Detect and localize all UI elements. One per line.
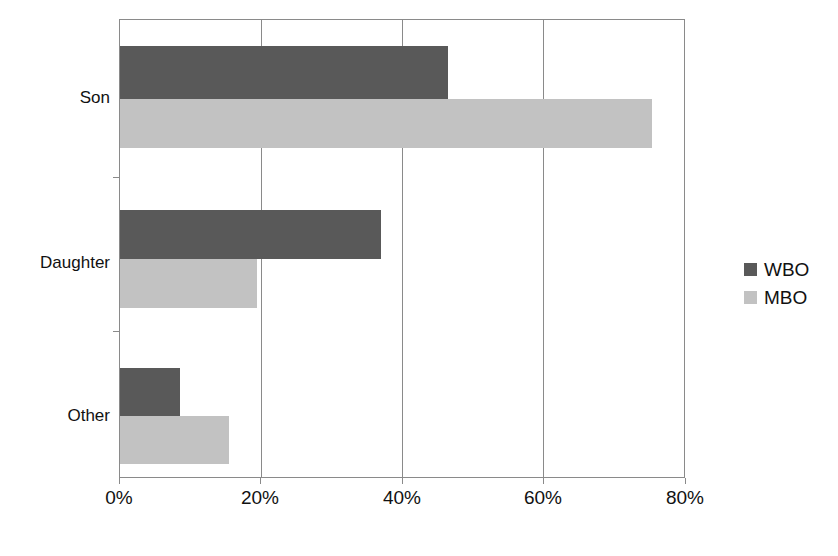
legend-swatch-mbo-icon	[744, 291, 757, 304]
x-axis-label-20: 20%	[220, 487, 300, 509]
bar-son-mbo	[120, 99, 652, 148]
x-axis-tick-60	[543, 478, 544, 484]
bar-daughter-mbo	[120, 259, 257, 308]
category-label-other: Other	[0, 407, 110, 424]
category-label-daughter: Daughter	[0, 254, 110, 271]
x-axis-label-60: 60%	[503, 487, 583, 509]
x-axis-tick-0	[119, 478, 120, 484]
x-axis-tick-80	[685, 478, 686, 484]
gridline-60	[543, 20, 544, 477]
x-axis-tick-20	[260, 478, 261, 484]
legend-swatch-wbo-icon	[744, 263, 757, 276]
legend-label-wbo: WBO	[764, 260, 809, 279]
category-label-son: Son	[0, 89, 110, 106]
x-axis-tick-40	[402, 478, 403, 484]
bar-other-wbo	[120, 368, 180, 416]
legend-label-mbo: MBO	[764, 288, 807, 307]
chart-legend: WBO MBO	[744, 255, 838, 311]
x-axis-label-80: 80%	[645, 487, 725, 509]
bar-other-mbo	[120, 416, 229, 464]
bar-daughter-wbo	[120, 210, 381, 259]
plot-area	[119, 19, 685, 478]
bar-chart: Son Daughter Other 0% 20% 40% 60% 80% WB…	[0, 0, 838, 556]
legend-item-mbo: MBO	[744, 283, 838, 311]
x-axis-label-40: 40%	[362, 487, 442, 509]
legend-item-wbo: WBO	[744, 255, 838, 283]
bar-son-wbo	[120, 46, 448, 99]
x-axis-label-0: 0%	[79, 487, 159, 509]
